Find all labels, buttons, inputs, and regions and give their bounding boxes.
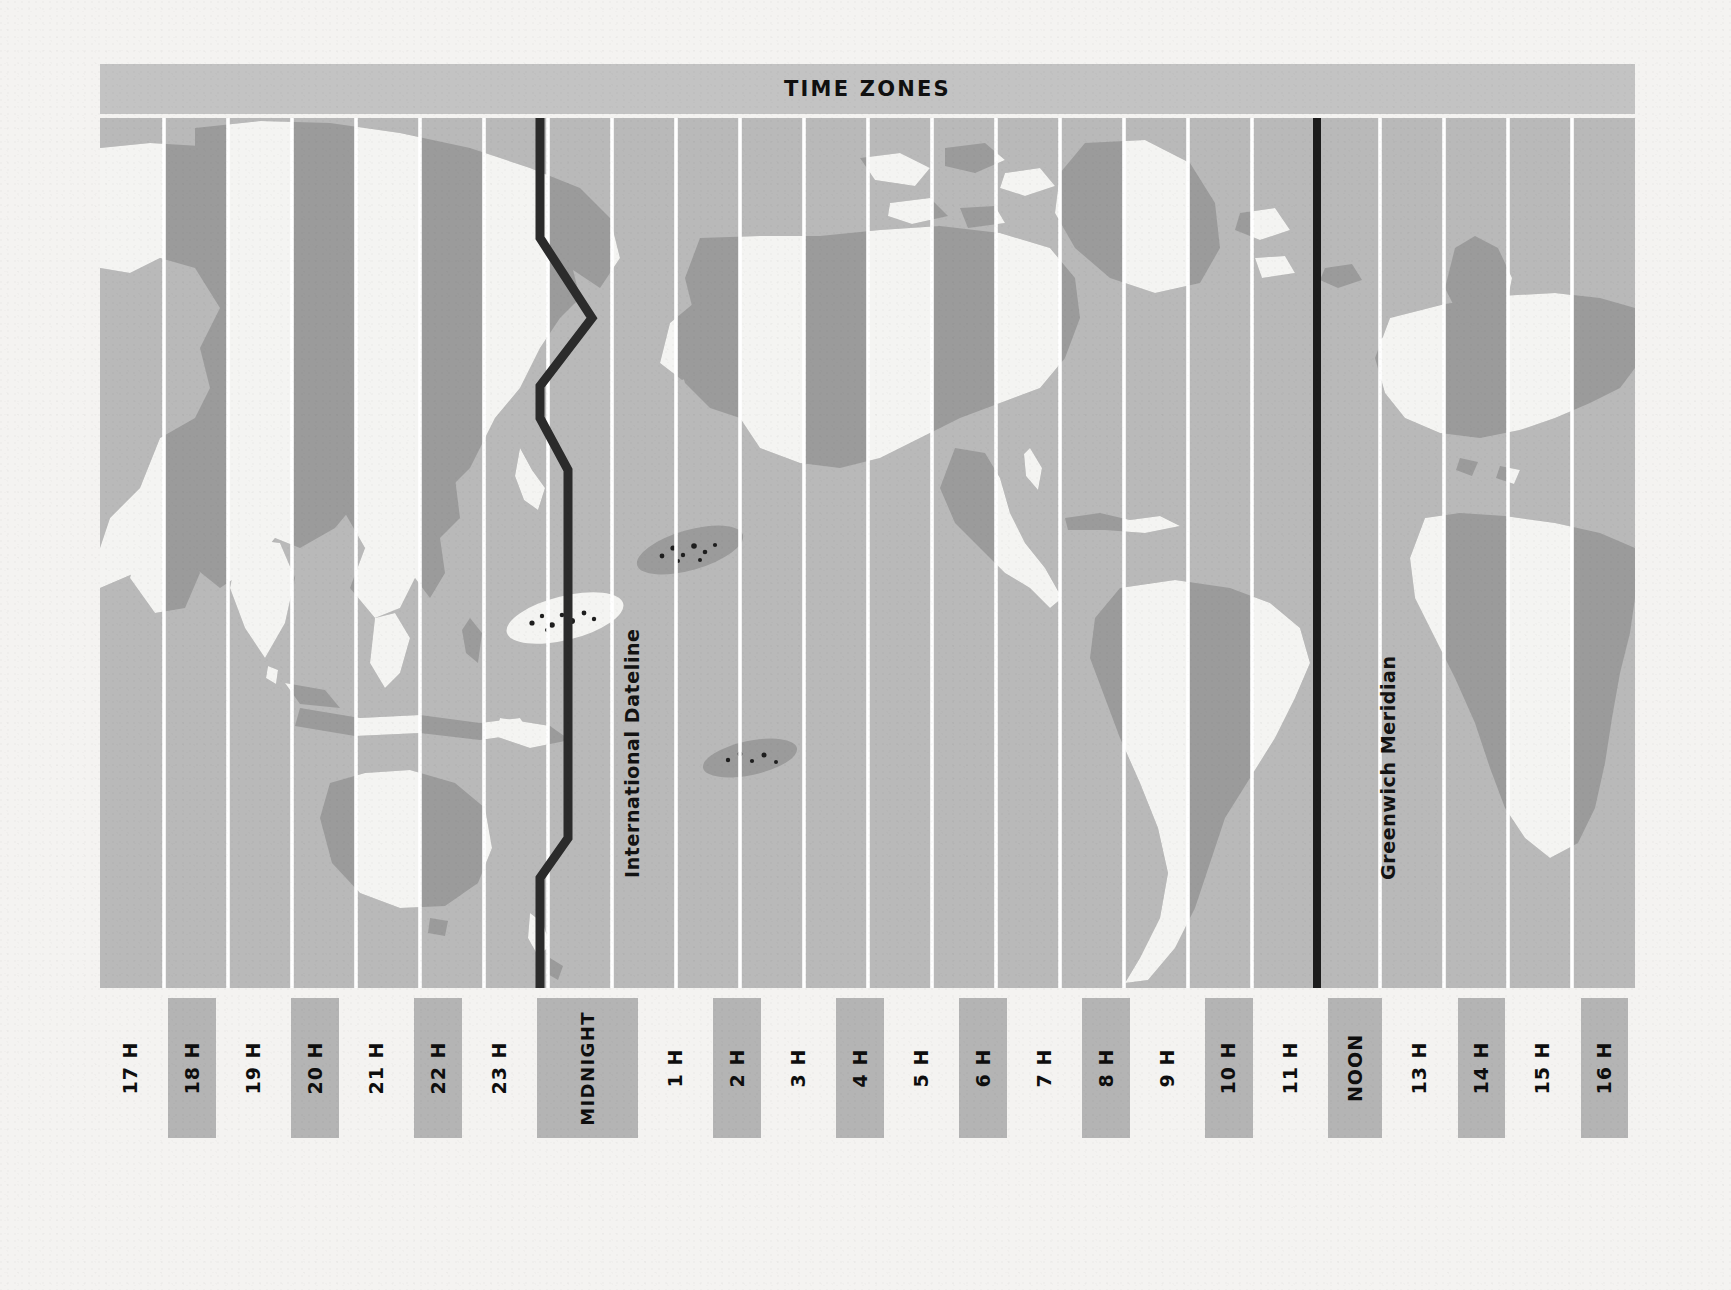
- hour-label: 14 H: [1470, 1042, 1492, 1095]
- hour-cell[interactable]: 22 H: [407, 998, 468, 1138]
- hour-label: 11 H: [1279, 1042, 1301, 1095]
- hour-cell[interactable]: 19 H: [223, 998, 284, 1138]
- hour-cell[interactable]: NOON: [1321, 998, 1389, 1138]
- hour-cell[interactable]: 6 H: [952, 998, 1013, 1138]
- hour-label: 13 H: [1409, 1042, 1431, 1095]
- hour-cell[interactable]: 16 H: [1574, 998, 1635, 1138]
- hour-cell[interactable]: 20 H: [284, 998, 345, 1138]
- map-graphic: [100, 118, 1635, 988]
- hour-cell[interactable]: 10 H: [1198, 998, 1259, 1138]
- world-time-zone-map: International Dateline Greenwich Meridia…: [100, 118, 1635, 988]
- international-dateline-label: International Dateline: [621, 628, 643, 878]
- hour-cell[interactable]: 5 H: [891, 998, 952, 1138]
- hour-cell[interactable]: 14 H: [1451, 998, 1512, 1138]
- greenwich-meridian-label: Greenwich Meridian: [1377, 655, 1399, 880]
- hour-label: 16 H: [1593, 1042, 1615, 1095]
- hour-cell[interactable]: 1 H: [645, 998, 706, 1138]
- hour-label: 3 H: [788, 1049, 810, 1088]
- hour-cell[interactable]: 23 H: [469, 998, 530, 1138]
- hour-label: 7 H: [1033, 1049, 1055, 1088]
- hour-cell[interactable]: 15 H: [1512, 998, 1573, 1138]
- page-background: TIME ZONES: [0, 0, 1731, 1290]
- hour-cell[interactable]: 13 H: [1389, 998, 1450, 1138]
- hour-cell[interactable]: 7 H: [1014, 998, 1075, 1138]
- hour-cell[interactable]: 4 H: [829, 998, 890, 1138]
- hour-label: 21 H: [366, 1042, 388, 1095]
- hour-label: 17 H: [120, 1042, 142, 1095]
- hour-label: 9 H: [1156, 1049, 1178, 1088]
- hour-cell[interactable]: MIDNIGHT: [530, 998, 645, 1138]
- hour-label: NOON: [1344, 1034, 1366, 1102]
- hour-cell[interactable]: 11 H: [1260, 998, 1321, 1138]
- hour-cell[interactable]: 21 H: [346, 998, 407, 1138]
- hour-label: 2 H: [726, 1049, 748, 1088]
- page-title: TIME ZONES: [784, 77, 951, 101]
- title-band: TIME ZONES: [100, 64, 1635, 114]
- hour-label: 15 H: [1532, 1042, 1554, 1095]
- hour-label: 6 H: [972, 1049, 994, 1088]
- hour-label: 1 H: [665, 1049, 687, 1088]
- hour-cell[interactable]: 2 H: [706, 998, 767, 1138]
- hour-label: 22 H: [427, 1042, 449, 1095]
- hour-label: MIDNIGHT: [577, 1011, 598, 1126]
- hour-label: 18 H: [181, 1042, 203, 1095]
- hour-cell[interactable]: 3 H: [768, 998, 829, 1138]
- hour-cell[interactable]: 17 H: [100, 998, 161, 1138]
- hour-cell[interactable]: 8 H: [1075, 998, 1136, 1138]
- hour-label: 5 H: [911, 1049, 933, 1088]
- hour-cell[interactable]: 18 H: [161, 998, 222, 1138]
- hour-label: 8 H: [1095, 1049, 1117, 1088]
- hour-label: 10 H: [1218, 1042, 1240, 1095]
- hour-label-strip: 17 H18 H19 H20 H21 H22 H23 HMIDNIGHT1 H2…: [100, 998, 1635, 1138]
- hour-cell[interactable]: 9 H: [1137, 998, 1198, 1138]
- hour-label: 23 H: [489, 1042, 511, 1095]
- hour-label: 20 H: [304, 1042, 326, 1095]
- hour-label: 4 H: [849, 1049, 871, 1088]
- hour-label: 19 H: [243, 1042, 265, 1095]
